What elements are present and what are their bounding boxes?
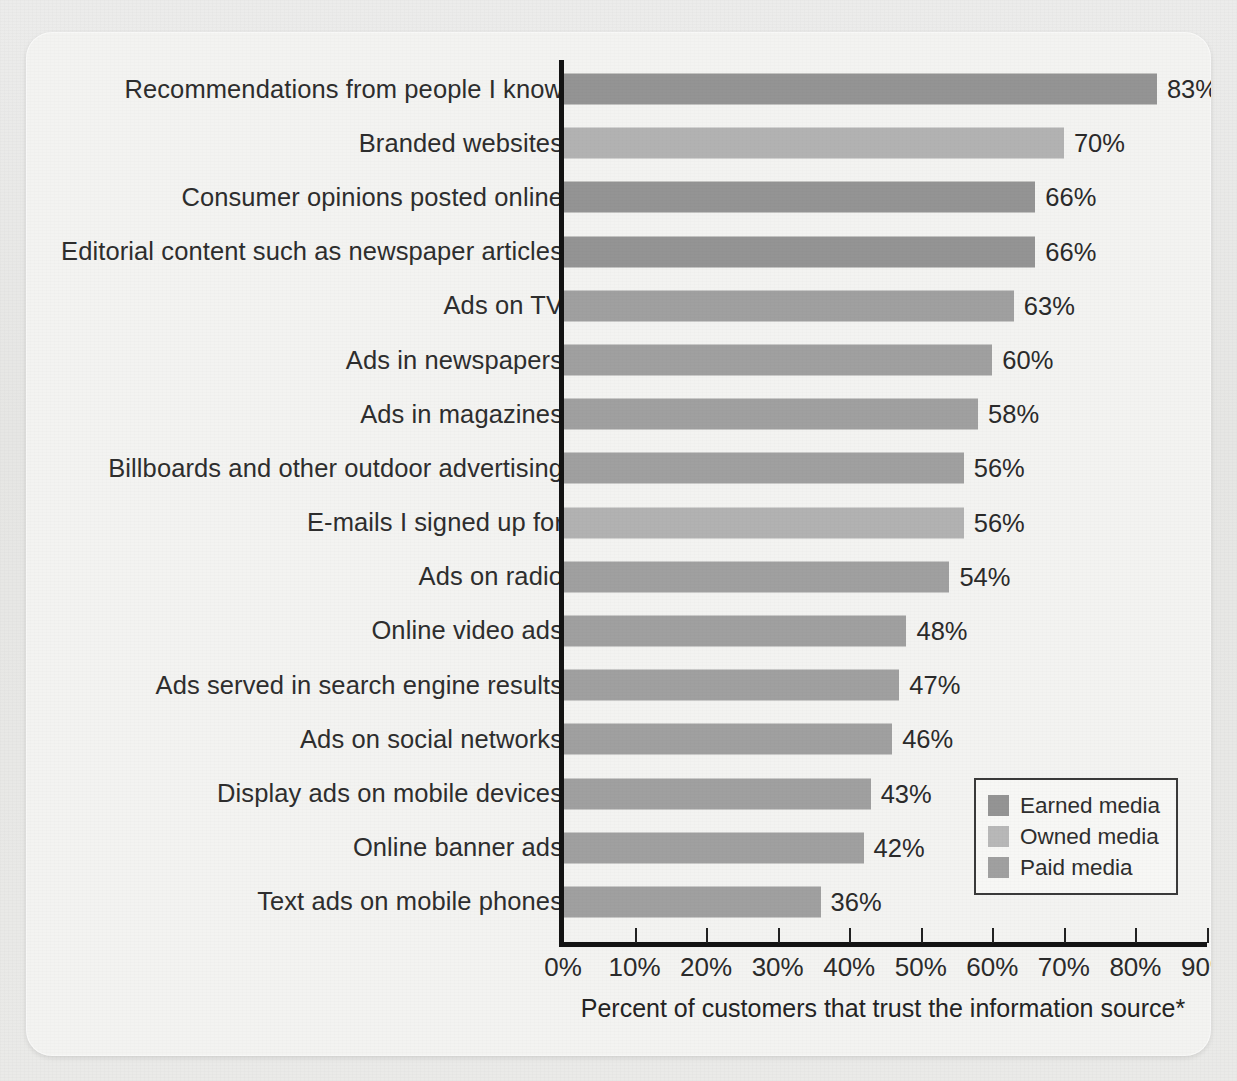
bar-row: Consumer opinions posted online66% [26, 170, 1211, 224]
chart-legend: Earned mediaOwned mediaPaid media [974, 778, 1178, 895]
x-axis-tick [635, 928, 637, 943]
bar [563, 128, 1064, 159]
x-axis-tick-label: 20% [680, 952, 732, 983]
x-axis-tick-label: 90% [1181, 952, 1211, 983]
category-label: Ads on TV [43, 291, 563, 320]
legend-swatch-icon [988, 795, 1009, 816]
figure-card: Recommendations from people I know83%Bra… [26, 32, 1211, 1056]
bar-and-value: 43% [563, 778, 932, 809]
bar-and-value: 56% [563, 453, 1025, 484]
x-axis-tick [992, 928, 994, 943]
bar-and-value: 66% [563, 236, 1096, 267]
bar-value-label: 66% [1045, 183, 1096, 212]
category-label: Ads on social networks [43, 725, 563, 754]
category-label: Text ads on mobile phones [43, 887, 563, 916]
bar [563, 615, 906, 646]
x-axis-tick-label: 0% [544, 952, 582, 983]
bar-and-value: 58% [563, 399, 1039, 430]
x-axis-tick [849, 928, 851, 943]
x-axis-tick-label: 50% [895, 952, 947, 983]
bar-value-label: 43% [881, 779, 932, 808]
category-label: Editorial content such as newspaper arti… [43, 237, 563, 266]
category-label: Ads in newspapers [43, 346, 563, 375]
bar-row: Ads on radio54% [26, 550, 1211, 604]
category-label: Billboards and other outdoor advertising [43, 454, 563, 483]
bar-value-label: 42% [874, 833, 925, 862]
legend-label: Paid media [1020, 855, 1133, 881]
bar-value-label: 47% [909, 671, 960, 700]
bar-and-value: 63% [563, 290, 1075, 321]
bar-and-value: 48% [563, 615, 968, 646]
category-label: Online video ads [43, 616, 563, 645]
bar-value-label: 54% [959, 562, 1010, 591]
x-axis-tick-label: 70% [1038, 952, 1090, 983]
bar-value-label: 36% [831, 887, 882, 916]
bar-row: Ads served in search engine results47% [26, 658, 1211, 712]
bar [563, 453, 964, 484]
category-label: Ads on radio [43, 562, 563, 591]
bar-and-value: 47% [563, 670, 960, 701]
bar-value-label: 48% [916, 616, 967, 645]
category-label: Display ads on mobile devices [43, 779, 563, 808]
bar-value-label: 56% [974, 508, 1025, 537]
category-label: Recommendations from people I know [43, 75, 563, 104]
category-label: Consumer opinions posted online [43, 183, 563, 212]
bar [563, 832, 864, 863]
legend-item-earned: Earned media [988, 790, 1160, 821]
x-axis-tick [1064, 928, 1066, 943]
bar [563, 561, 949, 592]
bar [563, 399, 978, 430]
legend-swatch-icon [988, 857, 1009, 878]
bar [563, 724, 892, 755]
bar-row: E-mails I signed up for56% [26, 496, 1211, 550]
bar [563, 507, 964, 538]
legend-label: Owned media [1020, 824, 1159, 850]
category-label: Branded websites [43, 129, 563, 158]
bar-value-label: 83% [1167, 75, 1211, 104]
x-axis-line [559, 942, 1207, 947]
x-axis-tick-label: 10% [609, 952, 661, 983]
x-axis-caption: Percent of customers that trust the info… [559, 994, 1207, 1023]
bar-and-value: 54% [563, 561, 1010, 592]
category-label: E-mails I signed up for [43, 508, 563, 537]
x-axis-tick-label: 30% [752, 952, 804, 983]
bar-and-value: 56% [563, 507, 1025, 538]
bar-value-label: 63% [1024, 291, 1075, 320]
bar-row: Editorial content such as newspaper arti… [26, 225, 1211, 279]
x-axis-tick [921, 928, 923, 943]
bar-value-label: 56% [974, 454, 1025, 483]
bar-row: Ads in newspapers60% [26, 333, 1211, 387]
bar-and-value: 60% [563, 345, 1053, 376]
x-axis-tick-label: 60% [966, 952, 1018, 983]
bar [563, 290, 1014, 321]
x-axis-tick-label: 40% [823, 952, 875, 983]
legend-swatch-icon [988, 826, 1009, 847]
bar [563, 345, 992, 376]
y-axis-line [559, 60, 564, 947]
legend-item-owned: Owned media [988, 821, 1160, 852]
bar [563, 670, 899, 701]
bar-value-label: 66% [1045, 237, 1096, 266]
bar-and-value: 42% [563, 832, 925, 863]
category-label: Ads served in search engine results [43, 671, 563, 700]
bar-value-label: 60% [1002, 346, 1053, 375]
bar-and-value: 36% [563, 886, 882, 917]
bar [563, 778, 871, 809]
bar [563, 236, 1035, 267]
bar-row: Branded websites70% [26, 116, 1211, 170]
x-axis-tick [1207, 928, 1209, 943]
legend-label: Earned media [1020, 793, 1160, 819]
x-axis-tick [706, 928, 708, 943]
bar [563, 886, 821, 917]
bar-and-value: 66% [563, 182, 1096, 213]
bar-and-value: 46% [563, 724, 953, 755]
x-axis-tick [778, 928, 780, 943]
bar-row: Recommendations from people I know83% [26, 62, 1211, 116]
bar-row: Ads in magazines58% [26, 387, 1211, 441]
category-label: Ads in magazines [43, 400, 563, 429]
bar [563, 182, 1035, 213]
bar-value-label: 58% [988, 400, 1039, 429]
x-axis-tick-label: 80% [1109, 952, 1161, 983]
bar-row: Online video ads48% [26, 604, 1211, 658]
category-label: Online banner ads [43, 833, 563, 862]
